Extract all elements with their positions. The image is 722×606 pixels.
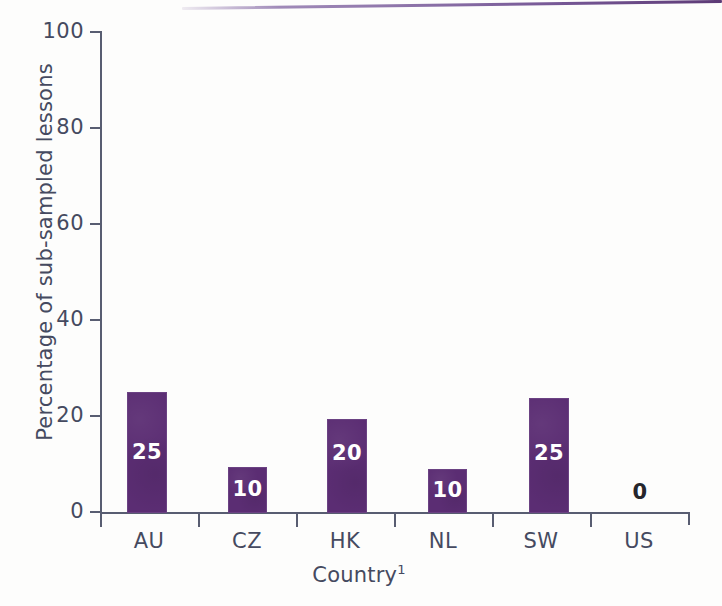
y-axis-label-0: 0	[0, 499, 84, 523]
x-axis-title-footnote-marker: 1	[397, 562, 405, 577]
x-axis-right-cap	[688, 512, 690, 525]
x-axis-label-us: US	[599, 529, 679, 553]
bar-value-nl: 10	[428, 478, 467, 502]
x-axis-label-nl: NL	[403, 529, 483, 553]
x-axis-tick-4	[492, 514, 494, 527]
x-axis-tick-1	[198, 514, 200, 527]
x-axis-label-cz: CZ	[207, 529, 287, 553]
y-axis-tick-80	[90, 127, 102, 129]
y-axis-title: Percentage of sub-sampled lessons	[33, 52, 57, 452]
bar-value-cz: 10	[228, 477, 267, 501]
x-axis-label-sw: SW	[501, 529, 581, 553]
x-axis-tick-2	[296, 514, 298, 527]
y-axis-line	[100, 31, 102, 514]
y-axis-tick-40	[90, 319, 102, 321]
page-top-rule-decoration	[182, 0, 722, 10]
x-axis-title: Country1	[0, 563, 718, 587]
bar-value-hk: 20	[327, 441, 367, 465]
y-axis-tick-100	[90, 31, 102, 33]
y-axis-tick-60	[90, 223, 102, 225]
x-axis-label-au: AU	[109, 529, 189, 553]
x-axis-tick-5	[590, 514, 592, 527]
y-axis-tick-0	[90, 511, 102, 513]
x-axis-tick-0	[100, 514, 102, 527]
y-axis-tick-20	[90, 415, 102, 417]
y-axis-label-100: 100	[0, 19, 84, 43]
bar-value-au: 25	[127, 440, 167, 464]
x-axis-label-hk: HK	[305, 529, 385, 553]
x-axis-tick-3	[394, 514, 396, 527]
bar-hk	[327, 419, 367, 513]
x-axis-title-text: Country	[312, 563, 397, 587]
bar-value-sw: 25	[529, 441, 569, 465]
bar-value-us: 0	[620, 480, 660, 504]
